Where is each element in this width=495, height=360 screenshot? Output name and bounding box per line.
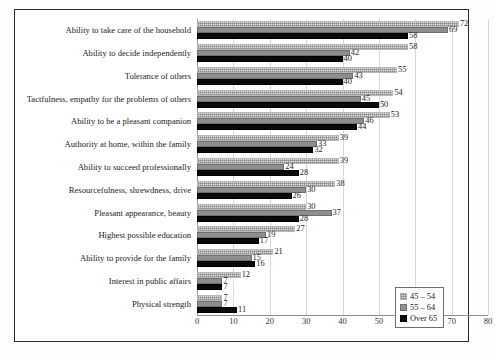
legend-swatch-icon (400, 304, 407, 311)
bar-value-label: 19 (267, 231, 275, 240)
x-tick-label: 20 (266, 316, 275, 326)
bar-2: 11 (197, 307, 237, 313)
bar-value-label: 69 (449, 26, 457, 35)
x-tick-label: 50 (375, 316, 384, 326)
chart-legend: 45 – 5455 – 64Over 65 (395, 287, 444, 328)
category-label: Resourcefulness, shrewdness, drive (11, 186, 191, 195)
bar-2: 17 (197, 238, 259, 244)
bar-value-label: 54 (394, 88, 402, 97)
category-label: Ability to take care of the household (11, 26, 191, 35)
chart-category-group: Authority at home, within the family3933… (197, 133, 488, 156)
chart-category-group: Interest in public affairs1277 (197, 269, 488, 292)
x-tick-label: 0 (195, 316, 199, 326)
bar-value-label: 39 (340, 156, 348, 165)
x-tick-label: 70 (447, 316, 456, 326)
bar-2: 32 (197, 147, 313, 153)
bar-2: 28 (197, 170, 299, 176)
bar-2: 44 (197, 124, 357, 130)
bar-2: 40 (197, 79, 343, 85)
legend-item[interactable]: 55 – 64 (400, 302, 437, 313)
bar-value-label: 43 (354, 71, 362, 80)
legend-swatch-icon (400, 315, 407, 322)
bar-2: 16 (197, 261, 255, 267)
chart-category-group: Tolerance of others554340 (197, 65, 488, 88)
chart-category-group: Physical strength7711 (197, 292, 488, 315)
legend-item[interactable]: 45 – 54 (400, 291, 437, 302)
plot-area: 01020304050607080Ability to take care of… (197, 19, 488, 326)
category-label: Tolerance of others (11, 72, 191, 81)
chart-category-group: Ability to provide for the family211516 (197, 247, 488, 270)
legend-label: Over 65 (410, 313, 437, 324)
bar-value-label: 40 (344, 54, 352, 63)
category-label: Interest in public affairs (11, 277, 191, 286)
bar-2: 40 (197, 56, 343, 62)
x-tick-label: 30 (302, 316, 311, 326)
chart-category-group: Ability to take care of the household726… (197, 19, 488, 42)
category-label: Physical strength (11, 300, 191, 309)
bar-value-label: 58 (409, 42, 417, 51)
bar-value-label: 72 (460, 20, 468, 29)
bar-value-label: 38 (336, 179, 344, 188)
bar-2: 7 (197, 284, 222, 290)
bar-value-label: 16 (256, 259, 264, 268)
category-label: Pleasant appearance, beauty (11, 209, 191, 218)
bar-2: 26 (197, 193, 292, 199)
category-label: Highest possible education (11, 231, 191, 240)
chart-frame: 01020304050607080Ability to take care of… (14, 9, 469, 342)
chart-category-group: Highest possible education271917 (197, 224, 488, 247)
bar-value-label: 40 (344, 77, 352, 86)
bar-value-label: 39 (340, 134, 348, 143)
category-label: Ability to be a pleasant companion (11, 117, 191, 126)
bar-value-label: 27 (296, 225, 304, 234)
bar-2: 58 (197, 33, 408, 39)
bar-value-label: 44 (358, 123, 366, 132)
chart-category-group: Tactfulness, empathy for the problems of… (197, 87, 488, 110)
category-label: Authority at home, within the family (11, 140, 191, 149)
category-label: Ability to decide independently (11, 49, 191, 58)
x-gridline-80 (488, 19, 489, 315)
legend-item[interactable]: Over 65 (400, 313, 437, 324)
category-label: Tactfulness, empathy for the problems of… (11, 95, 191, 104)
category-label: Ability to provide for the family (11, 254, 191, 263)
bar-value-label: 46 (365, 117, 373, 126)
chart-category-group: Ability to succeed professionally392428 (197, 156, 488, 179)
bar-2: 28 (197, 216, 299, 222)
bar-value-label: 17 (260, 237, 268, 246)
bar-2: 50 (197, 102, 379, 108)
x-tick-label: 80 (484, 316, 493, 326)
bar-value-label: 55 (398, 65, 406, 74)
legend-label: 45 – 54 (410, 291, 435, 302)
bar-value-label: 42 (351, 48, 359, 57)
bar-value-label: 7 (223, 282, 227, 291)
chart-category-group: Ability to decide independently584240 (197, 42, 488, 65)
category-label: Ability to succeed professionally (11, 163, 191, 172)
bar-value-label: 37 (333, 208, 341, 217)
chart-category-group: Ability to be a pleasant companion534644 (197, 110, 488, 133)
bar-value-label: 32 (314, 146, 322, 155)
bar-value-label: 58 (409, 32, 417, 41)
chart-category-group: Resourcefulness, shrewdness, drive383026 (197, 178, 488, 201)
bar-value-label: 21 (274, 247, 282, 256)
bar-value-label: 50 (380, 100, 388, 109)
bar-value-label: 28 (300, 168, 308, 177)
chart-category-group: Pleasant appearance, beauty303728 (197, 201, 488, 224)
bar-value-label: 11 (238, 305, 246, 314)
legend-label: 55 – 64 (410, 302, 435, 313)
bar-value-label: 53 (391, 111, 399, 120)
bar-value-label: 28 (300, 214, 308, 223)
bar-value-label: 26 (293, 191, 301, 200)
x-axis-line (197, 315, 488, 316)
x-tick-label: 40 (338, 316, 347, 326)
bar-value-label: 12 (242, 270, 250, 279)
x-tick-label: 10 (229, 316, 238, 326)
bar-value-label: 30 (307, 185, 315, 194)
legend-swatch-icon (400, 293, 407, 300)
